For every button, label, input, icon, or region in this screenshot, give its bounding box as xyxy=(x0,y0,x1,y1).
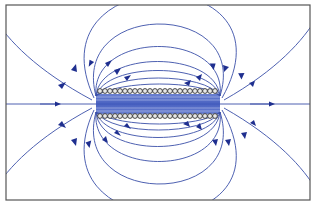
field-diagram-svg xyxy=(0,0,316,207)
coil-bottom-row xyxy=(98,114,218,119)
coil-top-row xyxy=(98,89,218,94)
solenoid-field-diagram: Magnetic field lines of a solenoid xyxy=(0,0,316,207)
field-lines xyxy=(0,0,316,207)
